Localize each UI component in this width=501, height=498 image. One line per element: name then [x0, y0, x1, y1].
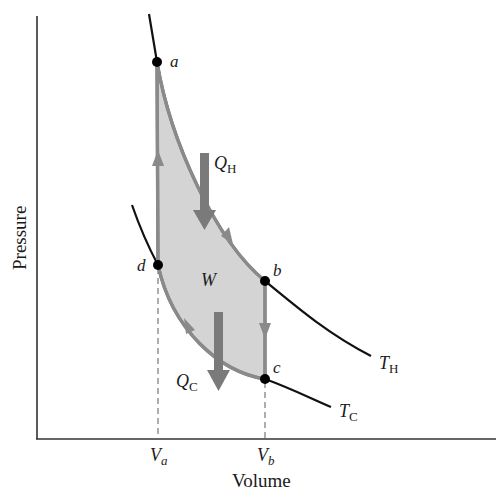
- cold-isotherm-label: TC: [339, 401, 358, 424]
- tick-va: Va: [150, 445, 168, 468]
- hot-isotherm-label: TH: [379, 353, 398, 376]
- tick-vb: Vb: [257, 445, 275, 468]
- point-d: [153, 260, 163, 270]
- pv-diagram: a b c d W QH QC TH TC Va Vb Volume Press…: [0, 0, 501, 498]
- point-b: [260, 276, 270, 286]
- point-c: [260, 374, 270, 384]
- label-c: c: [273, 358, 281, 377]
- label-b: b: [273, 261, 282, 280]
- label-d: d: [137, 256, 146, 275]
- heat-out-label: QC: [176, 371, 198, 394]
- y-axis-label: Pressure: [9, 206, 30, 270]
- work-label: W: [201, 270, 218, 290]
- heat-in-label: QH: [214, 153, 236, 176]
- point-a: [152, 57, 162, 67]
- label-a: a: [170, 52, 179, 71]
- x-axis-label: Volume: [232, 470, 291, 491]
- cycle-region: [157, 62, 265, 379]
